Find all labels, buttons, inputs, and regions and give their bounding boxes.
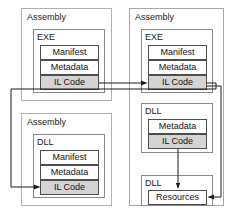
assembly-structure-diagram: Assembly EXE Manifest Metadata IL Code A… — [0, 0, 235, 215]
left-exe-metadata-section: Metadata — [40, 60, 99, 75]
right-dll-metadata-section: Metadata — [148, 119, 207, 134]
left-assembly-exe-title: Assembly — [27, 12, 66, 23]
left-assembly-dll-title: Assembly — [27, 117, 66, 128]
right-exe-manifest-section: Manifest — [148, 45, 207, 60]
right-exe-il-code-section: IL Code — [148, 75, 207, 90]
left-dll-metadata-section: Metadata — [40, 165, 99, 180]
right-dll-resources-section: Resources — [148, 190, 207, 205]
left-dll-module-title: DLL — [37, 137, 54, 148]
right-exe-metadata-section: Metadata — [148, 60, 207, 75]
left-exe-module-title: EXE — [37, 32, 55, 43]
left-dll-manifest-section: Manifest — [40, 150, 99, 165]
right-exe-module-title: EXE — [145, 32, 163, 43]
right-dll-code-module-title: DLL — [145, 106, 162, 117]
left-dll-il-code-section: IL Code — [40, 180, 99, 195]
right-dll-resources-module-title: DLL — [145, 178, 162, 189]
right-assembly-title: Assembly — [135, 12, 174, 23]
left-exe-il-code-section: IL Code — [40, 75, 99, 90]
right-dll-il-code-section: IL Code — [148, 134, 207, 149]
left-exe-manifest-section: Manifest — [40, 45, 99, 60]
